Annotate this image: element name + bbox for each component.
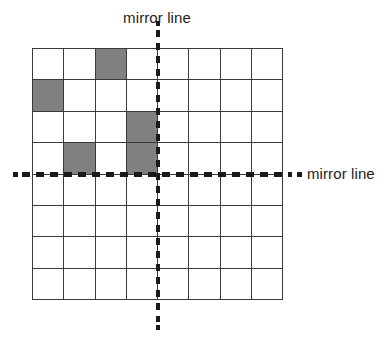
grid-cell-shaded[interactable]	[127, 143, 158, 174]
grid-cell[interactable]	[252, 112, 283, 143]
grid-cell[interactable]	[189, 237, 220, 268]
grid-cell[interactable]	[64, 269, 95, 300]
grid-cell[interactable]	[64, 237, 95, 268]
grid-cell[interactable]	[252, 80, 283, 111]
grid-cell[interactable]	[221, 80, 252, 111]
grid-cell[interactable]	[189, 49, 220, 80]
grid-cell[interactable]	[96, 269, 127, 300]
grid-cell-shaded[interactable]	[64, 143, 95, 174]
horizontal-mirror-line-label: mirror line	[307, 165, 375, 182]
grid-cell[interactable]	[64, 175, 95, 206]
grid-cell[interactable]	[127, 269, 158, 300]
grid-cell[interactable]	[252, 175, 283, 206]
grid-cell[interactable]	[158, 80, 189, 111]
grid-cell[interactable]	[189, 206, 220, 237]
grid-cell[interactable]	[189, 175, 220, 206]
grid-cell[interactable]	[127, 237, 158, 268]
grid-cell[interactable]	[64, 80, 95, 111]
vertical-mirror-line-top-dot	[156, 21, 161, 26]
vertical-mirror-line-bottom-dot	[156, 325, 161, 330]
grid-cell[interactable]	[252, 237, 283, 268]
horizontal-mirror-line-left-dot	[13, 172, 18, 177]
grid-cell[interactable]	[221, 175, 252, 206]
grid-cell[interactable]	[64, 112, 95, 143]
grid-cell[interactable]	[96, 80, 127, 111]
grid-cell-shaded[interactable]	[127, 112, 158, 143]
grid-cell[interactable]	[33, 175, 64, 206]
grid-cell[interactable]	[158, 175, 189, 206]
horizontal-mirror-line	[22, 172, 292, 177]
grid-cell[interactable]	[96, 112, 127, 143]
grid-cell[interactable]	[252, 143, 283, 174]
grid-cell[interactable]	[252, 206, 283, 237]
grid-cell-shaded[interactable]	[96, 49, 127, 80]
grid-cell[interactable]	[33, 49, 64, 80]
figure-canvas: mirror line mirror line	[0, 0, 388, 342]
horizontal-mirror-line-right-dot	[297, 172, 302, 177]
grid-cell[interactable]	[189, 80, 220, 111]
grid-cell[interactable]	[252, 49, 283, 80]
grid-cell[interactable]	[96, 143, 127, 174]
grid-cell[interactable]	[221, 112, 252, 143]
grid-cell[interactable]	[221, 237, 252, 268]
grid-cell[interactable]	[158, 49, 189, 80]
grid-cell[interactable]	[64, 206, 95, 237]
grid-cell[interactable]	[221, 49, 252, 80]
grid-cell[interactable]	[189, 112, 220, 143]
grid-cell[interactable]	[96, 206, 127, 237]
grid-cell[interactable]	[127, 175, 158, 206]
grid-cell[interactable]	[33, 112, 64, 143]
grid-cell[interactable]	[158, 269, 189, 300]
grid-cell[interactable]	[127, 206, 158, 237]
grid-cell[interactable]	[221, 269, 252, 300]
grid-cell[interactable]	[158, 143, 189, 174]
grid-cell[interactable]	[64, 49, 95, 80]
grid-cell[interactable]	[158, 206, 189, 237]
grid-cell[interactable]	[127, 80, 158, 111]
grid-cell[interactable]	[221, 143, 252, 174]
grid-cell[interactable]	[221, 206, 252, 237]
grid-cell[interactable]	[33, 206, 64, 237]
grid-cell[interactable]	[158, 112, 189, 143]
grid-cell[interactable]	[127, 49, 158, 80]
grid-cell[interactable]	[189, 269, 220, 300]
grid-cell[interactable]	[33, 143, 64, 174]
grid-cell[interactable]	[158, 237, 189, 268]
grid-cell[interactable]	[189, 143, 220, 174]
grid-cell[interactable]	[252, 269, 283, 300]
grid-cell-shaded[interactable]	[33, 80, 64, 111]
grid-cell[interactable]	[33, 269, 64, 300]
grid-cell[interactable]	[96, 237, 127, 268]
grid-cell[interactable]	[33, 237, 64, 268]
grid-cell[interactable]	[96, 175, 127, 206]
